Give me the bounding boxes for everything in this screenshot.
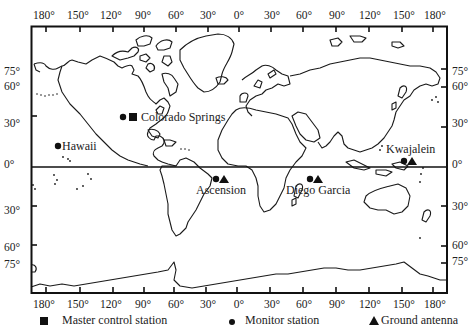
master-control-marker xyxy=(129,113,137,121)
square-icon xyxy=(40,317,48,325)
legend-ground-antenna: Ground antenna xyxy=(369,313,458,328)
world-map xyxy=(0,0,476,331)
triangle-icon xyxy=(369,316,379,325)
station-label-ascension: Ascension xyxy=(196,184,246,196)
left-ticks xyxy=(32,116,37,245)
station-label-kwajalein: Kwajalein xyxy=(386,143,435,155)
legend-monitor-label: Monitor station xyxy=(245,313,319,328)
legend-master-control: Master control station xyxy=(40,313,167,328)
map-frame xyxy=(32,27,448,294)
top-ticks xyxy=(46,27,433,32)
ground-antenna-marker xyxy=(219,175,229,183)
monitor-station-marker xyxy=(307,176,313,182)
dot-icon xyxy=(229,319,235,325)
monitor-station-marker xyxy=(55,143,61,149)
monitor-station-marker xyxy=(213,176,219,182)
station-label-colorado-springs: Colorado Springs xyxy=(141,111,225,123)
legend-monitor-station: Monitor station xyxy=(229,313,319,328)
station-label-hawaii: Hawaii xyxy=(62,140,97,152)
ground-antenna-marker xyxy=(313,175,323,183)
monitor-station-marker xyxy=(120,114,126,120)
legend-antenna-label: Ground antenna xyxy=(381,313,458,328)
legend-master-label: Master control station xyxy=(62,313,167,328)
station-markers xyxy=(55,113,417,183)
station-label-diego-garcia: Diego Garcia xyxy=(286,184,350,196)
monitor-station-marker xyxy=(401,158,407,164)
ground-antenna-marker xyxy=(407,157,417,165)
coastlines xyxy=(31,34,447,288)
